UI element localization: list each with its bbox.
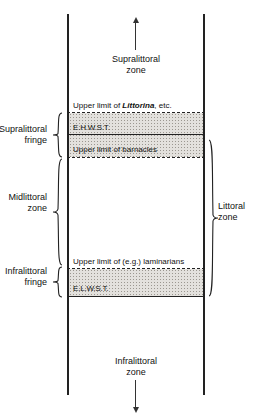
arrow-head-up-icon <box>133 17 139 23</box>
side-label-midlittoral-zone-line1: Midlittoral <box>0 192 47 203</box>
zone-label-infralittoral: Infralittoral zone <box>67 356 205 378</box>
side-label-littoral-zone-line2: zone <box>218 212 258 223</box>
side-label-littoral-zone-line1: Littoral <box>218 201 258 212</box>
zone-label-supralittoral-line1: Supralittoral <box>67 54 205 65</box>
side-label-littoral-zone: Littoral zone <box>218 201 258 223</box>
boundary-label-elwst: E.L.W.S.T. <box>73 284 108 294</box>
boundary-label-laminarians: Upper limit of (e.g.) laminarians <box>73 257 184 267</box>
boundary-label-littorina-genus: Littorina <box>122 101 154 110</box>
boundary-line-littorina <box>67 112 205 113</box>
side-label-supralittoral-fringe: Supralittoral fringe <box>0 124 47 146</box>
brace-infralittoral-fringe <box>52 266 63 298</box>
zone-label-supralittoral: Supralittoral zone <box>67 54 205 76</box>
boundary-label-barnacles: Upper limit of barnacles <box>73 145 157 155</box>
brace-supralittoral-fringe <box>52 112 63 158</box>
boundary-line-ehwst <box>67 134 205 135</box>
side-label-midlittoral-zone-line2: zone <box>0 203 47 214</box>
zone-label-infralittoral-line2: zone <box>67 367 205 378</box>
brace-midlittoral-zone <box>52 158 63 266</box>
boundary-label-littorina: Upper limit of Littorina, etc. <box>73 101 172 111</box>
boundary-line-laminarians <box>67 268 205 269</box>
boundary-label-littorina-suffix: , etc. <box>154 101 171 110</box>
zone-label-infralittoral-line1: Infralittoral <box>67 356 205 367</box>
arrow-head-down-icon <box>133 407 139 413</box>
side-label-supralittoral-fringe-line2: fringe <box>0 135 47 146</box>
side-label-supralittoral-fringe-line1: Supralittoral <box>0 124 47 135</box>
infralittoral-arrow-down <box>135 380 136 408</box>
boundary-label-littorina-prefix: Upper limit of <box>73 101 122 110</box>
zone-label-supralittoral-line2: zone <box>67 65 205 76</box>
side-label-infralittoral-fringe-line2: fringe <box>0 277 47 288</box>
boundary-line-barnacles <box>67 157 205 158</box>
supralittoral-arrow-up <box>135 22 136 50</box>
boundary-label-ehwst: E.H.W.S.T. <box>73 123 110 133</box>
side-label-infralittoral-fringe-line1: Infralittoral <box>0 266 47 277</box>
boundary-line-elwst <box>67 296 205 297</box>
side-label-infralittoral-fringe: Infralittoral fringe <box>0 266 47 288</box>
side-label-midlittoral-zone: Midlittoral zone <box>0 192 47 214</box>
